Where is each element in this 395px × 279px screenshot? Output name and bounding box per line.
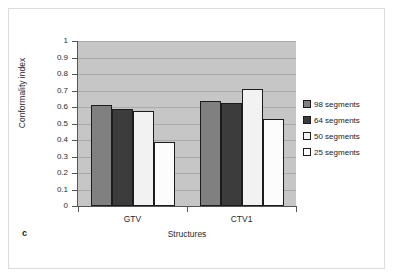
y-tick-label: 0.4 (57, 135, 68, 144)
y-tick-label: 0.9 (57, 53, 68, 62)
y-tick-label: 0.7 (57, 86, 68, 95)
legend-swatch-icon (303, 132, 311, 140)
x-tick-mark (187, 207, 188, 212)
bar (242, 89, 263, 206)
panel-letter: c (22, 228, 27, 238)
legend-label: 64 segments (314, 116, 360, 125)
y-tick-label: 0.5 (57, 119, 68, 128)
y-tick-mark (72, 58, 77, 59)
bar (91, 105, 112, 206)
y-tick-label: 0.8 (57, 69, 68, 78)
y-tick-label: 0.6 (57, 102, 68, 111)
bar (221, 103, 242, 206)
y-tick-label: 0.3 (57, 152, 68, 161)
gridline (78, 41, 296, 42)
category-label: CTV1 (187, 214, 296, 224)
y-tick-mark (72, 107, 77, 108)
y-tick-label: 0.2 (57, 168, 68, 177)
y-tick-mark (72, 140, 77, 141)
legend-item: 98 segments (303, 96, 360, 112)
legend-label: 25 segments (314, 148, 360, 157)
y-axis-line (77, 41, 78, 207)
legend-item: 64 segments (303, 112, 360, 128)
y-tick-label: 1 (64, 36, 68, 45)
gridline (78, 74, 296, 75)
y-tick-mark (72, 206, 77, 207)
y-tick-mark (72, 173, 77, 174)
x-axis-title: Structures (78, 229, 296, 239)
y-tick-mark (72, 91, 77, 92)
legend-swatch-icon (303, 148, 311, 156)
x-tick-mark (78, 207, 79, 212)
plot-area (78, 41, 296, 206)
y-tick-mark (72, 157, 77, 158)
chart-legend: 98 segments64 segments50 segments25 segm… (303, 96, 360, 160)
bar (133, 111, 154, 206)
bar (154, 142, 175, 206)
legend-label: 50 segments (314, 132, 360, 141)
legend-item: 50 segments (303, 128, 360, 144)
y-tick-mark (72, 124, 77, 125)
category-label: GTV (78, 214, 187, 224)
y-tick-label: 0.1 (57, 185, 68, 194)
y-tick-mark (72, 41, 77, 42)
gridline (78, 91, 296, 92)
legend-item: 25 segments (303, 144, 360, 160)
gridline (78, 58, 296, 59)
y-tick-mark (72, 74, 77, 75)
y-tick-mark (72, 190, 77, 191)
bar (263, 119, 284, 206)
bar (200, 101, 221, 206)
y-tick-label: 0 (64, 201, 68, 210)
legend-label: 98 segments (314, 100, 360, 109)
y-axis-title: Conformality index (17, 38, 27, 148)
legend-swatch-icon (303, 116, 311, 124)
x-tick-mark (296, 207, 297, 212)
legend-swatch-icon (303, 100, 311, 108)
bar (112, 109, 133, 206)
